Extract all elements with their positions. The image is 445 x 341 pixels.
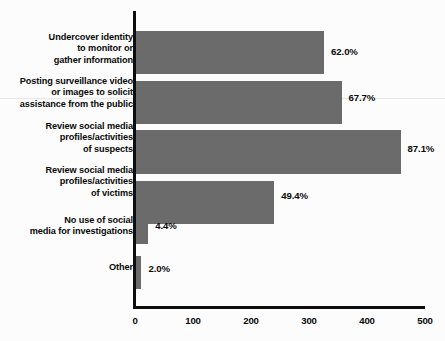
bar-value-0: 62.0%	[331, 46, 358, 57]
category-label-3: Review social media profiles/activities …	[46, 165, 133, 199]
x-tick-4: 400	[359, 315, 375, 326]
bar-value-5: 2.0%	[148, 263, 169, 274]
y-axis-line	[133, 11, 136, 309]
bar-value-3: 49.4%	[281, 190, 308, 201]
bar-3	[135, 181, 274, 224]
category-label-4: No use of social media for investigation…	[30, 215, 133, 238]
x-tick-0: 0	[132, 315, 137, 326]
bar-1	[135, 81, 342, 124]
x-tick-1: 100	[185, 315, 201, 326]
bar-value-1: 67.7%	[349, 92, 376, 103]
category-label-5: Other	[109, 262, 133, 273]
bar-0	[135, 31, 324, 74]
bar-4	[135, 212, 148, 244]
bar-value-4: 4.4%	[155, 220, 176, 231]
category-label-1: Posting surveillance video or images to …	[20, 76, 133, 110]
x-axis-line	[133, 306, 425, 309]
x-tick-3: 300	[301, 315, 317, 326]
x-tick-2: 200	[243, 315, 259, 326]
bar-value-2: 87.1%	[408, 143, 435, 154]
bar-2	[135, 130, 401, 174]
category-label-2: Review social media profiles/activities …	[46, 121, 133, 155]
category-label-0: Undercover identity to monitor or gather…	[49, 32, 133, 66]
plot-area: 62.0% 67.7% 87.1% 49.4% 4.4% 2.0%	[135, 0, 445, 341]
x-tick-5: 500	[417, 315, 433, 326]
bar-chart: Undercover identity to monitor or gather…	[0, 0, 445, 341]
